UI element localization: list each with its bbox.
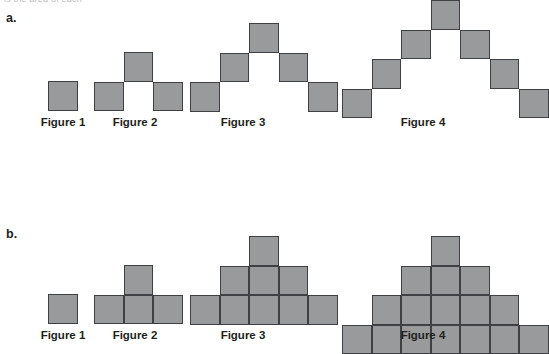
square-tile bbox=[519, 325, 549, 354]
square-tile bbox=[490, 325, 520, 354]
square-tile bbox=[308, 82, 338, 112]
section-letter-b: b. bbox=[6, 228, 17, 241]
square-tile bbox=[460, 266, 490, 296]
square-tile bbox=[124, 265, 154, 295]
square-tile bbox=[372, 59, 402, 89]
square-tile bbox=[490, 59, 520, 89]
square-tile bbox=[372, 295, 402, 325]
square-tile bbox=[460, 295, 490, 325]
square-tile bbox=[490, 295, 520, 325]
square-tile bbox=[249, 23, 279, 53]
square-tile bbox=[48, 81, 78, 111]
square-tile bbox=[401, 266, 431, 296]
figure-label: Figure 2 bbox=[105, 330, 165, 342]
square-tile bbox=[431, 236, 461, 266]
square-tile bbox=[48, 294, 78, 324]
square-tile bbox=[190, 82, 220, 112]
square-tile bbox=[190, 295, 220, 325]
section-letter-a: a. bbox=[6, 12, 16, 25]
square-tile bbox=[342, 325, 372, 354]
square-tile bbox=[460, 325, 490, 354]
square-tile bbox=[153, 295, 183, 325]
square-tile bbox=[249, 266, 279, 296]
square-tile bbox=[124, 295, 154, 325]
square-tile bbox=[249, 295, 279, 325]
square-tile bbox=[460, 30, 490, 60]
square-tile bbox=[401, 30, 431, 60]
figure-label: Figure 4 bbox=[393, 117, 453, 129]
square-tile bbox=[308, 295, 338, 325]
figure-label: Figure 3 bbox=[213, 117, 273, 129]
square-tile bbox=[279, 53, 309, 83]
square-tile bbox=[249, 236, 279, 266]
figure-label: Figure 1 bbox=[33, 330, 93, 342]
square-tile bbox=[94, 82, 124, 112]
square-tile bbox=[279, 295, 309, 325]
clipped-header-text: is the area of each bbox=[4, 0, 154, 5]
square-tile bbox=[220, 295, 250, 325]
square-tile bbox=[220, 53, 250, 83]
square-tile bbox=[279, 266, 309, 296]
square-tile bbox=[153, 82, 183, 112]
square-tile bbox=[519, 89, 549, 119]
figure-label: Figure 1 bbox=[33, 117, 93, 129]
square-tile bbox=[220, 266, 250, 296]
square-tile bbox=[124, 52, 154, 82]
square-tile bbox=[431, 0, 461, 30]
square-tile bbox=[431, 295, 461, 325]
figure-label: Figure 4 bbox=[393, 330, 453, 342]
square-tile bbox=[94, 295, 124, 325]
square-tile bbox=[401, 295, 431, 325]
figure-label: Figure 3 bbox=[213, 330, 273, 342]
square-tile bbox=[431, 266, 461, 296]
figure-label: Figure 2 bbox=[105, 117, 165, 129]
square-tile bbox=[342, 89, 372, 119]
